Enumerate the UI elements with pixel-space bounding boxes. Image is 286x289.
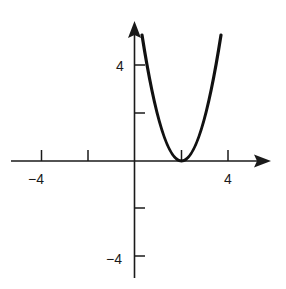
x-tick-label-4: 4	[224, 172, 232, 186]
y-tick-label-neg4: −4	[106, 252, 122, 266]
x-tick-label-neg4: −4	[28, 172, 44, 186]
graph-plot	[0, 0, 286, 289]
parabola-curve	[142, 35, 221, 161]
y-tick-label-4: 4	[116, 59, 124, 73]
